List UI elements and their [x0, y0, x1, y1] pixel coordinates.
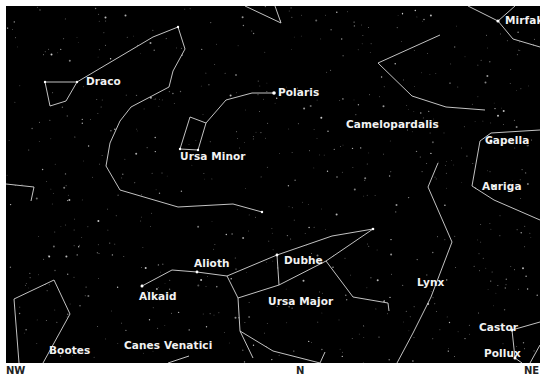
label-ursa-major: Ursa Major [268, 296, 333, 307]
label-auriga: Auriga [482, 181, 522, 192]
constellation-lines [6, 6, 540, 363]
label-bootes: Bootes [49, 345, 90, 356]
label-pollux: Pollux [484, 348, 521, 359]
direction-n: N [296, 366, 304, 376]
label-mirfak: Mirfak [505, 15, 540, 26]
label-castor: Castor [479, 322, 518, 333]
label-alioth: Alioth [194, 258, 230, 269]
label-canes-venatici: Canes Venatici [124, 340, 212, 351]
direction-ne: NE [524, 366, 539, 376]
label-ursa-minor: Ursa Minor [180, 151, 246, 162]
star-map[interactable]: Draco Ursa Minor Camelopardalis Ursa Maj… [6, 6, 540, 363]
label-lynx: Lynx [417, 277, 444, 288]
label-capella: Capella [485, 135, 529, 146]
label-alkaid: Alkaid [139, 291, 177, 302]
label-dubhe: Dubhe [284, 255, 323, 266]
label-polaris: Polaris [278, 87, 319, 98]
label-draco: Draco [86, 76, 121, 87]
label-camelopardalis: Camelopardalis [346, 119, 439, 130]
direction-nw: NW [6, 366, 25, 376]
